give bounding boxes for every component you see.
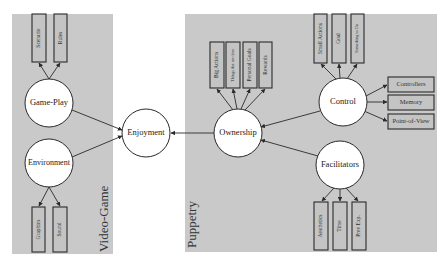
svg-text:Point-of-View: Point-of-View	[392, 117, 429, 124]
svg-text:Big Actions: Big Actions	[213, 52, 219, 78]
svg-text:Personal Goals: Personal Goals	[246, 48, 252, 81]
node-control: Control	[319, 78, 367, 126]
box-point-of-view: Point-of-View	[388, 114, 434, 129]
svg-text:Memory: Memory	[400, 98, 423, 105]
svg-text:Time: Time	[336, 220, 342, 232]
svg-text:Something to Do: Something to Do	[354, 24, 359, 53]
box-graphics: Graphics	[32, 207, 45, 252]
box-scenario: Scenario	[32, 14, 46, 62]
svg-text:Rules: Rules	[57, 32, 63, 45]
svg-text:Graphics: Graphics	[35, 220, 41, 240]
svg-text:Goal: Goal	[335, 33, 341, 44]
svg-text:Rewards: Rewards	[262, 55, 268, 74]
svg-text:Controllers: Controllers	[396, 80, 426, 87]
svg-text:Control: Control	[330, 96, 357, 106]
diagram-canvas: Video-Game Puppetry Scenario Rules Graph…	[0, 0, 448, 265]
node-environment: Environment	[25, 139, 73, 187]
box-something-to-do: Something to Do	[351, 14, 364, 63]
svg-text:Prev Exp.: Prev Exp.	[355, 215, 361, 237]
svg-text:Game-Play: Game-Play	[30, 97, 69, 107]
box-time: Time	[333, 202, 347, 250]
node-enjoyment: Enjoyment	[122, 109, 170, 157]
svg-text:Sound: Sound	[56, 222, 62, 236]
svg-text:Scenario: Scenario	[35, 28, 41, 47]
box-prev-exp: Prev Exp.	[352, 202, 366, 250]
box-small-actions: Small Actions	[314, 14, 327, 63]
node-facilitators: Facilitators	[316, 141, 364, 189]
svg-text:Environment: Environment	[28, 158, 71, 167]
svg-text:Ownership: Ownership	[219, 127, 256, 137]
node-game-play: Game-Play	[25, 79, 73, 127]
box-aesthetics: Aesthetics	[314, 202, 328, 250]
box-memory: Memory	[388, 95, 434, 110]
box-rules: Rules	[54, 14, 67, 62]
svg-text:Aesthetics: Aesthetics	[317, 215, 323, 238]
node-ownership: Ownership	[214, 109, 262, 157]
puppetry-panel-label: Puppetry	[184, 201, 199, 248]
box-rewards: Rewards	[259, 42, 272, 88]
box-personal-goals: Personal Goals	[243, 42, 257, 88]
box-controllers: Controllers	[388, 77, 434, 92]
box-sound: Sound	[53, 207, 67, 252]
svg-text:Facilitators: Facilitators	[321, 159, 359, 169]
box-things-done: Things that are done	[226, 42, 240, 88]
box-big-actions: Big Actions	[210, 42, 224, 88]
box-goal: Goal	[332, 14, 346, 63]
video-game-panel-label: Video-Game	[96, 185, 111, 252]
svg-text:Things that are done: Things that are done	[230, 48, 235, 81]
svg-text:Small Actions: Small Actions	[317, 23, 323, 54]
svg-text:Enjoyment: Enjoyment	[127, 127, 165, 137]
